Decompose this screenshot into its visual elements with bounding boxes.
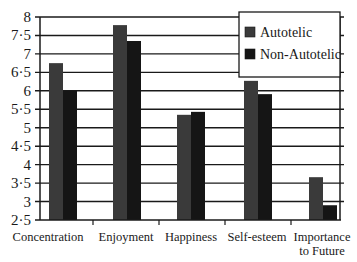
y-tick-label: 4 <box>24 157 32 173</box>
y-tick-label: 3 <box>24 194 32 210</box>
legend-swatch-non-autotelic <box>245 49 255 59</box>
bar-autotelic <box>244 81 258 220</box>
y-tick-label: 7 <box>24 46 32 62</box>
bar-chart: 2·533·544·555·566·577·58 ConcentrationEn… <box>0 0 357 262</box>
y-tick-label: 6·5 <box>11 64 31 80</box>
y-tick-label: 3·5 <box>11 175 31 191</box>
legend-box <box>239 12 340 77</box>
bar-autotelic <box>49 63 63 220</box>
x-axis-labels: ConcentrationEnjoymentHappinessSelf-este… <box>13 230 351 258</box>
x-tick-label: Concentration <box>13 230 85 244</box>
y-tick-label: 5·5 <box>11 101 31 117</box>
legend: AutotelicNon-Autotelic <box>239 12 341 77</box>
y-tick-label: 5 <box>24 120 32 136</box>
y-tick-label: 2·5 <box>11 212 31 228</box>
x-tick-label: Self-esteem <box>227 230 286 244</box>
x-tick-label: Importance <box>294 230 351 244</box>
bar-non-autotelic <box>63 91 77 220</box>
bar-autotelic <box>113 25 127 220</box>
bar-non-autotelic <box>258 94 272 220</box>
y-tick-label: 7·5 <box>11 27 31 43</box>
y-tick-label: 4·5 <box>11 138 31 154</box>
legend-label: Autotelic <box>260 25 312 40</box>
y-tick-label: 6 <box>24 83 32 99</box>
x-tick-label: to Future <box>299 244 345 258</box>
bar-autotelic <box>177 115 191 220</box>
x-tick-label: Happiness <box>165 230 217 244</box>
bar-non-autotelic <box>323 205 337 220</box>
y-axis-ticks: 2·533·544·555·566·577·58 <box>11 9 32 228</box>
legend-label: Non-Autotelic <box>260 47 341 62</box>
y-tick-label: 8 <box>24 9 32 25</box>
bar-autotelic <box>309 177 323 220</box>
bar-non-autotelic <box>191 112 205 220</box>
legend-swatch-autotelic <box>245 27 255 37</box>
x-tick-label: Enjoyment <box>99 230 154 244</box>
bar-non-autotelic <box>127 41 141 220</box>
